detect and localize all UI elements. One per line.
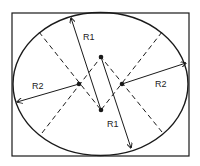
dashed-line-upper-left xyxy=(39,32,101,110)
dashed-line-upper-right xyxy=(101,32,162,110)
center-dot-left xyxy=(77,82,82,87)
r1-lower-arrow xyxy=(101,57,131,148)
ellipse-radii-diagram: R1 R1 R2 R2 xyxy=(0,0,200,166)
dashed-line-lower-left xyxy=(42,57,101,133)
label-r1-bottom: R1 xyxy=(107,119,119,129)
center-dot-bottom xyxy=(99,108,104,113)
center-dot-right xyxy=(120,82,125,87)
construction-lines xyxy=(39,32,162,133)
center-dot-top xyxy=(99,55,104,60)
arc-centers xyxy=(77,55,125,113)
label-r2-right: R2 xyxy=(155,79,167,89)
label-r2-left: R2 xyxy=(32,81,44,91)
label-r1-top: R1 xyxy=(83,32,95,42)
r2-right-arrow xyxy=(122,63,186,84)
r2-left-arrow xyxy=(17,84,79,102)
